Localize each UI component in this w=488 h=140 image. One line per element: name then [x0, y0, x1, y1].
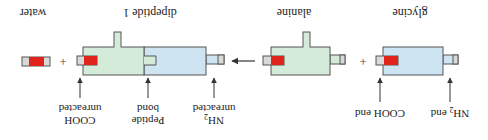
glycine-label: glycine — [392, 6, 427, 20]
glycine-nh2-annotation: NH2 end — [430, 105, 469, 120]
glycine-molecule — [376, 47, 458, 75]
dipeptide-nh2-cap — [218, 55, 224, 64]
alanine-label: alanine — [277, 6, 312, 20]
alanine-cooh-red — [271, 56, 284, 65]
glycine-cooh-annotation: COOH end — [355, 108, 405, 120]
dipeptide-label: dipeptide 1 — [123, 6, 177, 20]
alanine-side-chain-join — [304, 46, 310, 48]
peptide-bond-annotation-line2: bond — [137, 103, 160, 115]
dipeptide-side-chain — [114, 32, 121, 48]
dipeptide-nh2-annotation-line2: unreacted — [192, 103, 235, 115]
dipeptide-cooh-annotation: COOH — [64, 115, 95, 127]
alanine-molecule — [263, 32, 345, 75]
glycine-nh2-cap — [453, 55, 458, 64]
water-molecule — [22, 57, 50, 66]
dipeptide-side-chain-join — [115, 46, 121, 48]
peptide-bond-annotation: Peptide — [131, 115, 164, 127]
water-label: water — [20, 6, 47, 20]
plus-sign-2: + — [59, 54, 66, 69]
dipeptide-cooh-annotation-line2: unreacted — [58, 103, 101, 115]
glycine-cooh-red — [384, 56, 398, 65]
plus-sign-1: + — [359, 54, 366, 69]
alanine-nh2-cap — [340, 55, 345, 64]
water-red-center — [29, 57, 44, 66]
dipeptide-molecule — [77, 32, 224, 75]
peptide-bond-notch — [144, 56, 156, 65]
alanine-side-chain — [303, 32, 310, 48]
dipeptide-cooh-red — [84, 56, 97, 65]
peptide-formation-diagram: + + — [0, 0, 488, 140]
